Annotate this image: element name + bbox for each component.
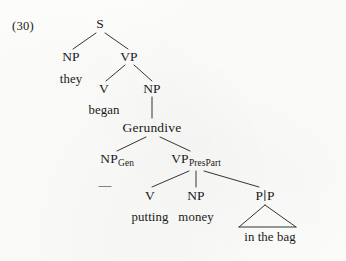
edge-s-np (73, 33, 96, 49)
triangle-right-side (265, 205, 296, 227)
node-np-gen-subscript: Gen (118, 158, 134, 168)
edge-vp-np (134, 65, 152, 81)
terminal-they: they (60, 73, 82, 86)
terminal-money: money (178, 211, 213, 224)
edge-vppres-v (152, 171, 189, 187)
node-vp-prespart-label: VP (171, 151, 189, 166)
node-s: S (96, 17, 104, 31)
node-vp-prespart: VPPresPart (171, 152, 221, 166)
node-pp: PP (255, 189, 274, 203)
node-np-gen-label: NP (100, 151, 118, 166)
terminal-putting: putting (132, 211, 169, 224)
terminal-in-the-bag: in the bag (244, 231, 295, 244)
empty-category-dash: — (98, 178, 111, 191)
edge-vppres-pp (204, 171, 259, 187)
example-number: (30) (12, 19, 34, 34)
node-v-gerund: V (145, 189, 155, 203)
node-np-money: NP (187, 189, 205, 203)
node-np-object: NP (143, 82, 161, 96)
node-vp-prespart-subscript: PresPart (189, 158, 221, 168)
syntax-tree-figure: (30) S NP they VP V began (0, 0, 346, 261)
node-pp-stray-stroke (265, 190, 266, 201)
node-v-matrix: V (99, 82, 109, 96)
edge-gerundive-npgen (117, 137, 146, 151)
node-np-subject: NP (62, 50, 80, 64)
triangle-left-side (239, 205, 265, 227)
edge-s-vp (105, 33, 128, 49)
edge-gerundive-vppres (160, 137, 190, 151)
terminal-began: began (88, 104, 119, 117)
node-pp-label-part-one: P (255, 188, 263, 203)
edge-vp-v (106, 65, 125, 81)
node-pp-label-part-two: P (267, 188, 275, 203)
node-gerundive: Gerundive (123, 121, 182, 135)
node-np-gen: NPGen (100, 152, 134, 166)
node-vp-matrix: VP (120, 50, 138, 64)
